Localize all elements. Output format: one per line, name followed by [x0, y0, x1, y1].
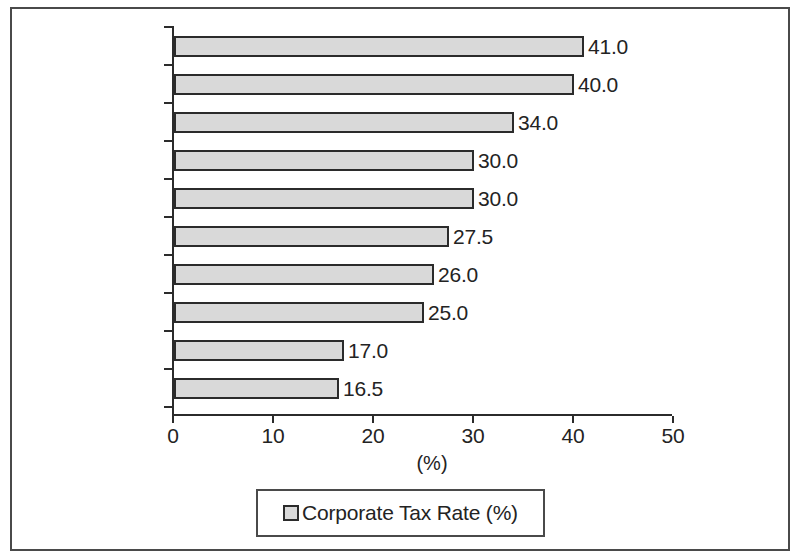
- bar-value-label: 17.0: [348, 340, 388, 361]
- bar: [174, 36, 584, 57]
- legend-label: Corporate Tax Rate (%): [302, 501, 518, 525]
- bar: [174, 188, 474, 209]
- bar: [174, 226, 449, 247]
- bar-value-label: 34.0: [518, 112, 558, 133]
- y-axis-tick: [164, 102, 172, 104]
- bar: [174, 74, 574, 95]
- bar-value-label: 30.0: [478, 150, 518, 171]
- y-axis-tick: [164, 406, 172, 408]
- y-axis-tick: [164, 64, 172, 66]
- bar: [174, 302, 424, 323]
- y-axis-tick: [164, 330, 172, 332]
- legend-swatch-icon: [283, 505, 299, 521]
- legend-inner: Corporate Tax Rate (%): [258, 491, 543, 535]
- bar-value-label: 41.0: [588, 36, 628, 57]
- bar-value-label: 25.0: [428, 302, 468, 323]
- bar: [174, 150, 474, 171]
- bar: [174, 112, 514, 133]
- x-axis-tick-label: 0: [143, 424, 203, 448]
- x-axis-tick: [272, 416, 274, 423]
- bar-value-label: 26.0: [438, 264, 478, 285]
- legend: Corporate Tax Rate (%): [256, 489, 545, 537]
- y-axis-tick: [164, 368, 172, 370]
- bar-chart-plot: 01020304050 Japan41.0US40.0India34.0Indo…: [0, 0, 802, 557]
- x-axis-line: [172, 414, 672, 416]
- bar-value-label: 40.0: [578, 74, 618, 95]
- y-axis-tick: [164, 216, 172, 218]
- y-axis-tick: [164, 292, 172, 294]
- y-axis-tick: [164, 178, 172, 180]
- x-axis-tick: [572, 416, 574, 423]
- x-axis-tick: [472, 416, 474, 423]
- bar-value-label: 30.0: [478, 188, 518, 209]
- x-axis-tick-label: 30: [443, 424, 503, 448]
- x-axis-tick-label: 20: [343, 424, 403, 448]
- chart-screenshot: 01020304050 Japan41.0US40.0India34.0Indo…: [0, 0, 802, 557]
- x-axis-tick: [172, 416, 174, 423]
- bar: [174, 264, 434, 285]
- y-axis-tick: [164, 26, 172, 28]
- bar-value-label: 16.5: [343, 378, 383, 399]
- x-axis-tick: [672, 416, 674, 423]
- x-axis-tick-label: 10: [243, 424, 303, 448]
- x-axis-tick-label: 40: [543, 424, 603, 448]
- y-axis-tick: [164, 254, 172, 256]
- x-axis-title: (%): [372, 452, 492, 475]
- bar: [174, 378, 339, 399]
- bar: [174, 340, 344, 361]
- y-axis-tick: [164, 140, 172, 142]
- bar-value-label: 27.5: [453, 226, 493, 247]
- x-axis-tick: [372, 416, 374, 423]
- x-axis-tick-label: 50: [643, 424, 703, 448]
